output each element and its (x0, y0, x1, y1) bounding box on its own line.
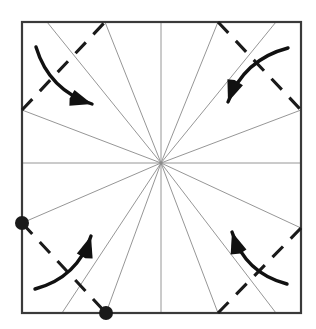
crease-pattern-canvas (0, 0, 316, 329)
reference-dot-left-edge (15, 216, 29, 230)
reference-dot-bottom-edge (99, 306, 113, 320)
origami-crease-pattern-figure (0, 0, 316, 329)
